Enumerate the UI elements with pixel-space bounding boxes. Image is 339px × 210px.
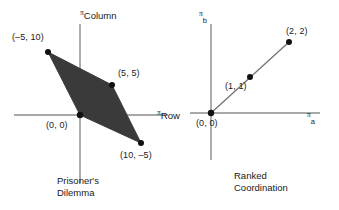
label-point-0-0-right: (0, 0) <box>196 118 218 129</box>
point-0-0-right <box>208 110 214 116</box>
label-point-minus5-10: (–5, 10) <box>12 32 44 43</box>
left-y-axis-label-text: Column <box>84 10 117 21</box>
right-panel-caption-line1: Ranked <box>234 170 267 182</box>
label-point-0-0-left: (0, 0) <box>46 120 68 131</box>
right-x-axis-label-text: a <box>311 117 315 126</box>
left-panel-caption-line2: Dilemma <box>57 187 94 199</box>
point-5-5 <box>109 82 115 88</box>
right-y-axis-label: πb <box>199 9 207 25</box>
left-y-axis-label: πColumn <box>80 8 117 21</box>
right-panel-caption-line2: Coordination <box>234 182 288 194</box>
right-panel-axes <box>190 24 320 160</box>
figure-container: πColumn πRow (–5, 10) (5, 5) (0, 0) (10,… <box>0 0 339 210</box>
point-0-0-left <box>77 112 83 118</box>
left-x-axis-label: πRow <box>157 108 180 121</box>
point-minus5-10 <box>45 49 51 55</box>
label-point-5-5: (5, 5) <box>118 68 140 79</box>
label-point-10-minus5: (10, –5) <box>120 150 152 161</box>
point-2-2 <box>286 39 292 45</box>
right-y-axis-label-text: b <box>203 16 207 25</box>
left-panel-caption-line1: Prisoner's <box>57 175 99 187</box>
label-point-2-2: (2, 2) <box>286 26 308 37</box>
point-1-1 <box>247 74 253 80</box>
label-point-1-1: (1, 1) <box>225 81 247 92</box>
point-10-minus5 <box>138 140 144 146</box>
right-x-axis-label: πa <box>307 110 315 126</box>
left-x-axis-label-text: Row <box>161 110 180 121</box>
